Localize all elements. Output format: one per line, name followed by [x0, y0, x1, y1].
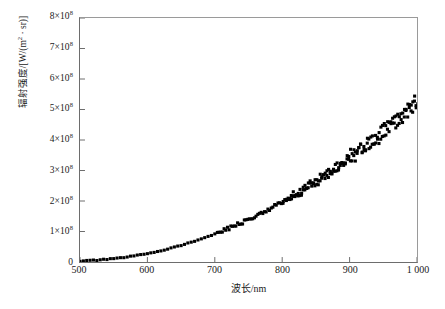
- data-point-marker: [156, 250, 159, 253]
- plot-canvas: [80, 18, 417, 262]
- y-axis-tick-labels: 01×1082×1083×1084×1085×1086×1087×1088×10…: [0, 0, 79, 309]
- data-point-marker: [356, 149, 359, 152]
- data-point-marker: [309, 179, 312, 182]
- data-point-marker: [415, 106, 417, 109]
- data-point-marker: [132, 254, 135, 257]
- data-point-marker: [406, 115, 409, 118]
- data-point-marker: [366, 142, 369, 145]
- data-point-marker: [376, 138, 379, 141]
- data-point-marker: [129, 255, 132, 258]
- data-point-marker: [298, 188, 301, 191]
- data-point-marker: [224, 229, 227, 232]
- data-point-marker: [413, 95, 416, 98]
- data-point-marker: [228, 228, 231, 231]
- data-point-marker: [169, 246, 172, 249]
- data-point-marker: [389, 122, 392, 125]
- data-point-marker: [241, 222, 244, 225]
- data-point-marker: [292, 190, 295, 193]
- y-axis-tick-label: 8×108: [50, 12, 73, 22]
- data-point-marker: [317, 183, 320, 186]
- data-point-marker: [89, 259, 92, 262]
- data-point-marker: [393, 122, 396, 125]
- y-axis-ticks: [80, 18, 85, 262]
- data-point-marker: [112, 257, 115, 260]
- data-point-marker: [329, 170, 332, 173]
- data-point-marker: [405, 108, 408, 111]
- data-point-marker: [221, 231, 224, 234]
- x-axis-tick-label: 1 000: [407, 265, 430, 275]
- data-point-marker: [166, 248, 169, 251]
- data-point-marker: [330, 172, 333, 175]
- plot-area: [79, 17, 418, 263]
- data-point-marker: [312, 182, 315, 185]
- data-point-marker: [92, 258, 95, 261]
- data-point-marker: [388, 130, 391, 133]
- data-point-marker: [190, 241, 193, 244]
- x-axis-title: 波长/nm: [79, 280, 418, 295]
- data-point-marker: [350, 159, 353, 162]
- data-point-marker: [327, 176, 330, 179]
- data-point-marker: [323, 177, 326, 180]
- y-axis-tick-label: 7×108: [50, 43, 73, 53]
- x-axis-tick-label: 900: [343, 265, 358, 275]
- data-point-marker: [369, 146, 372, 149]
- data-point-marker: [142, 253, 145, 256]
- data-point-marker: [300, 192, 303, 195]
- data-point-marker: [146, 252, 149, 255]
- data-point-marker: [207, 235, 210, 238]
- data-point-marker: [136, 254, 139, 257]
- data-point-marker: [159, 249, 162, 252]
- data-point-marker: [85, 259, 88, 262]
- data-point-marker: [319, 179, 322, 182]
- data-point-marker: [354, 160, 357, 163]
- data-point-marker: [173, 245, 176, 248]
- data-point-marker: [302, 188, 305, 191]
- x-axis-tick-label: 800: [275, 265, 290, 275]
- data-point-marker: [105, 258, 108, 261]
- data-point-marker: [122, 256, 125, 259]
- data-point-marker: [413, 100, 416, 103]
- y-axis-tick-label: 6×108: [50, 74, 73, 84]
- data-point-marker: [356, 152, 359, 155]
- data-point-marker: [303, 184, 306, 187]
- data-point-marker: [183, 243, 186, 246]
- data-point-marker: [82, 259, 85, 262]
- data-point-marker: [401, 121, 404, 124]
- data-point-marker: [400, 118, 403, 121]
- data-point-marker: [378, 131, 381, 134]
- data-point-marker: [99, 258, 102, 261]
- data-point-marker: [149, 251, 152, 254]
- x-axis-tick-label: 700: [207, 265, 222, 275]
- y-axis-tick-label: 4×108: [50, 135, 73, 145]
- data-point-marker: [398, 122, 401, 125]
- data-point-marker: [416, 102, 417, 105]
- data-series-markers: [80, 95, 417, 262]
- data-point-marker: [265, 210, 268, 213]
- radiance-spectrum-figure: 辐射强度/[W/(m2 · sr)] 01×1082×1083×1084×108…: [0, 0, 445, 309]
- x-axis-ticks: [80, 257, 417, 262]
- data-point-marker: [176, 245, 179, 248]
- data-point-marker: [210, 234, 213, 237]
- data-point-marker: [119, 256, 122, 259]
- data-point-marker: [410, 104, 413, 107]
- data-point-marker: [234, 225, 237, 228]
- data-point-marker: [193, 240, 196, 243]
- data-point-marker: [203, 236, 206, 239]
- y-axis-tick-label: 2×108: [50, 197, 73, 207]
- data-point-marker: [126, 255, 129, 258]
- data-point-marker: [371, 134, 374, 137]
- data-point-marker: [347, 155, 350, 158]
- data-point-marker: [139, 253, 142, 256]
- data-point-marker: [305, 187, 308, 190]
- data-point-marker: [352, 154, 355, 157]
- data-point-marker: [80, 260, 82, 262]
- data-point-marker: [109, 257, 112, 260]
- data-point-marker: [186, 241, 189, 244]
- data-point-marker: [332, 170, 335, 173]
- data-point-marker: [362, 145, 365, 148]
- data-point-marker: [196, 238, 199, 241]
- data-point-marker: [366, 137, 369, 140]
- data-point-marker: [384, 134, 387, 137]
- data-point-marker: [379, 138, 382, 141]
- data-point-marker: [364, 148, 367, 151]
